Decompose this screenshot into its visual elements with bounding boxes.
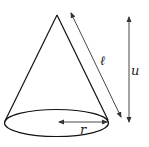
height-label: u [131,63,139,78]
cone-left-edge [5,15,57,121]
slant-height-label: ℓ [100,53,106,68]
slant-height-arrow [71,13,121,117]
cone-base-ellipse [5,110,109,137]
radius-label: r [80,122,87,137]
cone-shape [5,15,109,137]
cone-diagram: r ℓ u [0,0,149,147]
